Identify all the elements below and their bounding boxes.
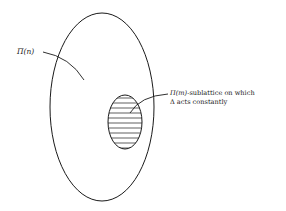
inner-set-label-line2: Δ acts constantly (170, 99, 227, 106)
lattice-diagram (0, 0, 286, 211)
outer-set-leader-line (43, 52, 84, 80)
inner-set-hatching (100, 98, 150, 148)
inner-set-label-line1: Π(m)-sublattice on which (170, 90, 255, 97)
outer-set-ellipse (50, 13, 154, 201)
inner-set-leader-line (130, 94, 168, 113)
outer-set-label: Π(n) (17, 48, 34, 56)
inner-set-label-rest: -sublattice on which (187, 89, 254, 97)
inner-set-label-arg: (m) (176, 89, 187, 97)
outer-set-label-arg: (n) (24, 47, 35, 56)
